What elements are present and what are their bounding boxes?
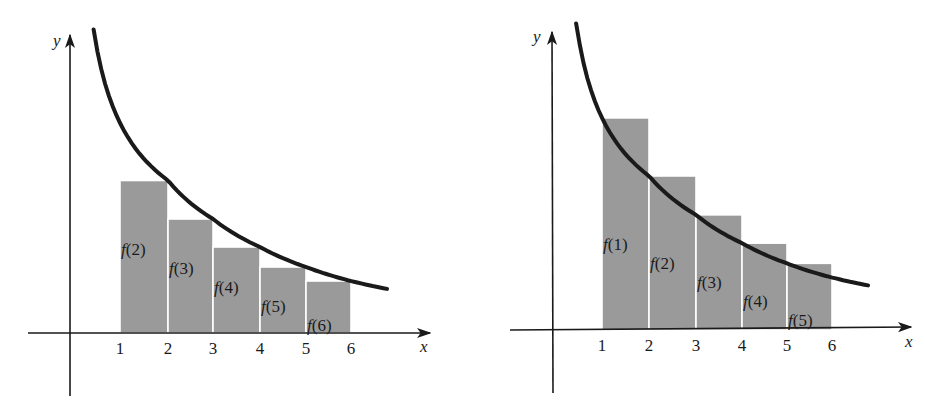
x-tick-label: 2 bbox=[645, 336, 654, 355]
x-tick-labels: 123456 bbox=[116, 339, 356, 358]
bar-label: f(2) bbox=[650, 254, 675, 273]
bar-label: f(1) bbox=[603, 235, 628, 254]
x-axis-label: x bbox=[904, 332, 913, 351]
x-tick-label: 4 bbox=[256, 339, 265, 358]
y-axis bbox=[552, 32, 553, 393]
bar-label: f(5) bbox=[788, 311, 813, 330]
x-tick-label: 4 bbox=[738, 336, 747, 355]
x-tick-label: 6 bbox=[347, 339, 356, 358]
bar-1 bbox=[602, 118, 649, 330]
bars bbox=[602, 118, 832, 330]
upper-sum-plot: 123456 f(1)f(2)f(3)f(4)f(5) x y bbox=[510, 23, 913, 393]
bars bbox=[120, 181, 351, 334]
x-axis-label: x bbox=[419, 337, 428, 356]
x-tick-labels: 123456 bbox=[598, 336, 837, 355]
x-tick-label: 5 bbox=[302, 339, 311, 358]
bar-label: f(2) bbox=[121, 240, 146, 259]
x-tick-label: 3 bbox=[209, 339, 218, 358]
x-tick-label: 3 bbox=[692, 336, 701, 355]
bar-label: f(4) bbox=[214, 278, 239, 297]
lower-sum-plot: 123456 f(2)f(3)f(4)f(5)f(6) x y bbox=[28, 29, 430, 396]
y-axis-label: y bbox=[51, 31, 61, 50]
bar-label: f(3) bbox=[169, 259, 194, 278]
bar-label: f(4) bbox=[743, 292, 768, 311]
x-tick-label: 2 bbox=[164, 339, 173, 358]
bar-label: f(5) bbox=[261, 297, 286, 316]
bar-label: f(3) bbox=[697, 273, 722, 292]
y-axis-label: y bbox=[531, 27, 541, 46]
x-tick-label: 1 bbox=[116, 339, 125, 358]
bar-label: f(6) bbox=[307, 316, 332, 335]
x-tick-label: 5 bbox=[783, 336, 792, 355]
x-tick-label: 6 bbox=[828, 336, 837, 355]
x-tick-label: 1 bbox=[598, 336, 607, 355]
riemann-sum-figure: 123456 f(2)f(3)f(4)f(5)f(6) x y 123456 f… bbox=[0, 0, 925, 417]
